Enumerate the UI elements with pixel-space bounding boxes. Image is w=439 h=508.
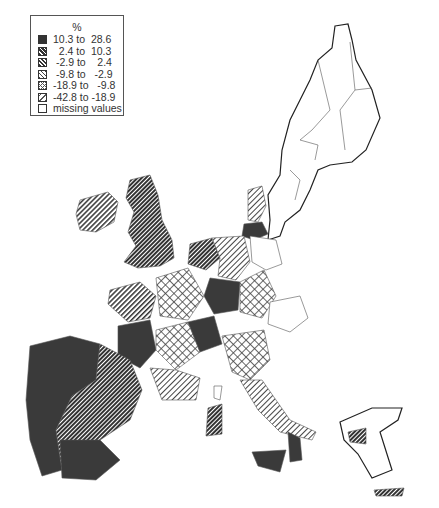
region-sardinia — [206, 404, 222, 436]
region-germany-e — [250, 236, 282, 270]
region-denmark — [248, 186, 266, 222]
swatch-solid-icon — [38, 35, 47, 44]
swatch-dense-diagonal-icon — [38, 47, 47, 56]
swatch-sparse-diagonal-icon — [38, 93, 47, 102]
region-iberia-s — [60, 440, 120, 480]
region-italy-c — [240, 380, 316, 440]
scandinavia — [268, 24, 380, 240]
region-austria — [268, 296, 308, 332]
region-greece — [340, 408, 402, 478]
legend: % 10.3 to 28.6 2.4 to 10.3 -2.9 to 2.4 -… — [30, 15, 124, 116]
region-germany-w — [204, 278, 240, 314]
region-france-n — [156, 268, 204, 320]
legend-title: % — [31, 20, 123, 34]
swatch-crosshatch-icon — [38, 81, 47, 90]
swatch-blank-icon — [38, 104, 47, 113]
region-ireland — [76, 192, 118, 232]
legend-item: -18.9 to -9.8 — [31, 80, 123, 92]
region-great-britain — [124, 175, 174, 268]
region-france-nw — [108, 282, 156, 322]
region-france-s — [150, 368, 200, 400]
swatch-light-diagonal-icon — [38, 70, 47, 79]
swatch-medium-diagonal-icon — [38, 58, 47, 67]
region-sicily — [252, 450, 286, 472]
region-greece-n — [348, 428, 366, 444]
region-crete — [374, 488, 404, 496]
region-italy-n — [222, 330, 270, 380]
legend-item: -2.9 to 2.4 — [31, 57, 123, 69]
legend-item: 10.3 to 28.6 — [31, 34, 123, 46]
region-corsica — [214, 386, 222, 400]
legend-item: missing values — [31, 103, 123, 115]
